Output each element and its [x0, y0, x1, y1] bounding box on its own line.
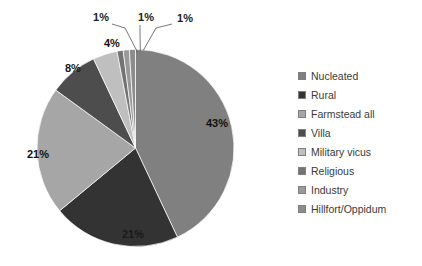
pie-callout-religious: 1%: [93, 11, 109, 23]
pie-callout-hillfort: 1%: [177, 12, 193, 24]
pie-label-rural: 21%: [122, 228, 144, 240]
pie-label-military: 4%: [104, 37, 120, 49]
legend-swatch-icon: [298, 129, 306, 137]
legend-item-label: Nucleated: [311, 70, 358, 82]
legend-swatch-icon: [298, 110, 306, 118]
pie-callout-industry: 1%: [138, 11, 154, 23]
chart-plot-area: 1% 1% 1% 43% 21% 21% 8% 4%: [0, 0, 290, 266]
legend-swatch-icon: [298, 148, 306, 156]
legend-item-hillfort-oppidum[interactable]: Hillfort/Oppidum: [298, 199, 418, 218]
legend-item-label: Hillfort/Oppidum: [311, 203, 386, 215]
legend-swatch-icon: [298, 186, 306, 194]
legend-item-nucleated[interactable]: Nucleated: [298, 66, 418, 85]
legend-item-rural[interactable]: Rural: [298, 85, 418, 104]
legend-item-label: Rural: [311, 89, 336, 101]
chart-legend: NucleatedRuralFarmstead allVillaMilitary…: [298, 66, 418, 218]
pie-chart-screenshot: 1% 1% 1% 43% 21% 21% 8% 4% NucleatedRura…: [0, 0, 422, 266]
legend-swatch-icon: [298, 167, 306, 175]
legend-item-label: Military vicus: [311, 146, 371, 158]
leader-line-hillfort: [143, 24, 172, 51]
legend-item-label: Industry: [311, 184, 348, 196]
pie-label-villa: 8%: [65, 62, 81, 74]
pie-chart-svg: 1% 1% 1% 43% 21% 21% 8% 4%: [0, 0, 290, 266]
legend-swatch-icon: [298, 72, 306, 80]
legend-item-industry[interactable]: Industry: [298, 180, 418, 199]
pie-slices-group: [37, 49, 234, 246]
legend-item-label: Villa: [311, 127, 331, 139]
legend-item-military-vicus[interactable]: Military vicus: [298, 142, 418, 161]
legend-swatch-icon: [298, 91, 306, 99]
legend-item-religious[interactable]: Religious: [298, 161, 418, 180]
pie-label-nucleated: 43%: [206, 117, 228, 129]
legend-swatch-icon: [298, 205, 306, 213]
legend-item-villa[interactable]: Villa: [298, 123, 418, 142]
legend-item-label: Farmstead all: [311, 108, 375, 120]
pie-label-farmstead: 21%: [27, 148, 49, 160]
legend-item-label: Religious: [311, 165, 354, 177]
legend-item-farmstead-all[interactable]: Farmstead all: [298, 104, 418, 123]
